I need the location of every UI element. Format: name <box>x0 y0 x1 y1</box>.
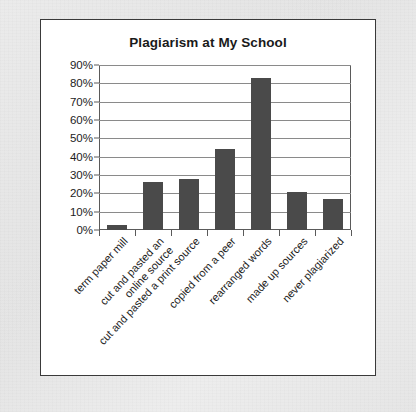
x-axis-tick-mark <box>351 230 352 236</box>
bar-slot <box>135 65 171 230</box>
y-axis-tick-label: 90% <box>70 59 93 71</box>
bar-slot <box>99 65 135 230</box>
y-axis-tick-label: 10% <box>70 206 93 218</box>
y-axis-tick-label: 0% <box>76 224 93 236</box>
x-axis-labels-group: term paper millcut and pasted anonline s… <box>99 235 351 365</box>
plot-area-wrapper: 0%10%20%30%40%50%60%70%80%90% <box>99 65 351 230</box>
bar-slot <box>279 65 315 230</box>
bar-never-plagiarized <box>323 199 343 230</box>
y-axis-tick-label: 80% <box>70 77 93 89</box>
bar-rearranged-words <box>251 78 271 230</box>
y-axis-tick-label: 60% <box>70 114 93 126</box>
bar-slot <box>171 65 207 230</box>
y-axis-tick-label: 40% <box>70 151 93 163</box>
bar-cut-and-pasted-an-online-source <box>143 182 163 230</box>
chart-panel: Plagiarism at My School 0%10%20%30%40%50… <box>40 19 376 376</box>
y-axis-tick-label: 50% <box>70 132 93 144</box>
bar-copied-from-a-peer <box>215 149 235 230</box>
bar-slot <box>207 65 243 230</box>
y-axis-tick-label: 70% <box>70 96 93 108</box>
bar-term-paper-mill <box>107 225 127 231</box>
bar-slot <box>315 65 351 230</box>
y-axis-tick-label: 20% <box>70 187 93 199</box>
x-axis-label-line: rearranged words <box>207 235 276 307</box>
bar-made-up-sources <box>287 192 307 231</box>
bar-cut-and-pasted-a-print-source <box>179 179 199 230</box>
bars-group <box>99 65 351 230</box>
bar-slot <box>243 65 279 230</box>
chart-title: Plagiarism at My School <box>41 35 375 50</box>
y-axis-tick-label: 30% <box>70 169 93 181</box>
x-axis-label-rearranged-words: rearranged words <box>207 235 276 307</box>
